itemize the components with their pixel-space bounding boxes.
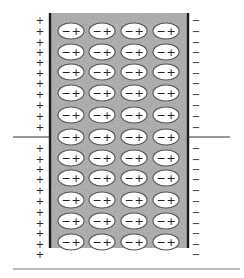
dipole: −+ xyxy=(89,213,115,229)
plus-charge: + xyxy=(36,143,44,154)
dipole-positive-charge: + xyxy=(166,172,175,185)
dipole-negative-charge: − xyxy=(61,152,70,165)
dipole-negative-charge: − xyxy=(92,109,101,122)
dipole-negative-charge: − xyxy=(92,236,101,249)
dipole-negative-charge: − xyxy=(124,172,133,185)
plus-charge: + xyxy=(36,174,44,185)
dipole: −+ xyxy=(89,107,115,123)
minus-charge: − xyxy=(192,207,200,218)
dipole-positive-charge: + xyxy=(71,215,80,228)
dipole-negative-charge: − xyxy=(61,87,70,100)
dipole-positive-charge: + xyxy=(166,194,175,207)
dipole-negative-charge: − xyxy=(61,46,70,59)
dipole-positive-charge: + xyxy=(166,131,175,144)
plus-charge: + xyxy=(36,207,44,218)
dipole: −+ xyxy=(153,150,179,166)
dipole: −+ xyxy=(89,170,115,186)
dipole-negative-charge: − xyxy=(92,194,101,207)
dipole-negative-charge: − xyxy=(124,152,133,165)
dipole-positive-charge: + xyxy=(134,109,143,122)
dipole: −+ xyxy=(58,85,84,101)
dipole-negative-charge: − xyxy=(156,152,165,165)
dipole: −+ xyxy=(121,129,147,145)
dipole-negative-charge: − xyxy=(156,109,165,122)
dipole-positive-charge: + xyxy=(102,46,111,59)
minus-charge: − xyxy=(192,174,200,185)
dipole: −+ xyxy=(58,107,84,123)
dipole: −+ xyxy=(89,44,115,60)
dipole-positive-charge: + xyxy=(134,194,143,207)
dipole-positive-charge: + xyxy=(102,25,111,38)
dipole: −+ xyxy=(58,23,84,39)
dipole: −+ xyxy=(58,192,84,208)
dipole-positive-charge: + xyxy=(134,66,143,79)
dipole: −+ xyxy=(58,150,84,166)
minus-charge: − xyxy=(192,57,200,68)
dipole: −+ xyxy=(153,192,179,208)
dipole-positive-charge: + xyxy=(134,172,143,185)
minus-charge: − xyxy=(192,111,200,122)
dipole: −+ xyxy=(58,129,84,145)
dipole: −+ xyxy=(153,234,179,250)
dipole-negative-charge: − xyxy=(156,194,165,207)
dipole: −+ xyxy=(153,107,179,123)
dipole-positive-charge: + xyxy=(102,236,111,249)
dipole-positive-charge: + xyxy=(134,131,143,144)
dipole: −+ xyxy=(58,64,84,80)
minus-charge: − xyxy=(192,15,200,26)
dipole: −+ xyxy=(153,44,179,60)
dipole-positive-charge: + xyxy=(102,109,111,122)
minus-charge: − xyxy=(192,78,200,89)
dipole: −+ xyxy=(89,64,115,80)
dipole-positive-charge: + xyxy=(166,87,175,100)
dipole-positive-charge: + xyxy=(102,194,111,207)
minus-charge: − xyxy=(192,249,200,260)
dipole: −+ xyxy=(121,170,147,186)
dipole: −+ xyxy=(89,85,115,101)
minus-charge: − xyxy=(192,122,200,133)
dipole: −+ xyxy=(89,234,115,250)
dipole-positive-charge: + xyxy=(134,87,143,100)
dipole-positive-charge: + xyxy=(71,172,80,185)
plus-charge: + xyxy=(36,196,44,207)
minus-charge: − xyxy=(192,26,200,37)
dipole-positive-charge: + xyxy=(166,109,175,122)
dipole-negative-charge: − xyxy=(124,194,133,207)
plus-charge: + xyxy=(36,228,44,239)
dipole: −+ xyxy=(121,44,147,60)
dipole: −+ xyxy=(58,170,84,186)
dipole-positive-charge: + xyxy=(71,194,80,207)
dipole-positive-charge: + xyxy=(71,25,80,38)
dipole-negative-charge: − xyxy=(124,109,133,122)
dipole-negative-charge: − xyxy=(92,152,101,165)
minus-charge: − xyxy=(192,143,200,154)
dipole-negative-charge: − xyxy=(92,25,101,38)
dipole-positive-charge: + xyxy=(102,152,111,165)
dipole-positive-charge: + xyxy=(134,46,143,59)
minus-charge: − xyxy=(192,100,200,111)
dipole-negative-charge: − xyxy=(92,215,101,228)
plus-charge: + xyxy=(36,249,44,260)
dipole-positive-charge: + xyxy=(71,152,80,165)
dipole: −+ xyxy=(89,23,115,39)
dipole-negative-charge: − xyxy=(156,46,165,59)
dipole: −+ xyxy=(153,170,179,186)
dipole: −+ xyxy=(121,23,147,39)
dipole-positive-charge: + xyxy=(102,172,111,185)
minus-charge: − xyxy=(192,89,200,100)
minus-charge: − xyxy=(192,228,200,239)
dipole: −+ xyxy=(58,44,84,60)
dipole-negative-charge: − xyxy=(124,25,133,38)
dipole-negative-charge: − xyxy=(156,87,165,100)
dipole-negative-charge: − xyxy=(124,236,133,249)
dipole-negative-charge: − xyxy=(156,25,165,38)
plus-charge: + xyxy=(36,185,44,196)
dipole-positive-charge: + xyxy=(71,46,80,59)
dipole-negative-charge: − xyxy=(124,87,133,100)
dipole-negative-charge: − xyxy=(92,172,101,185)
dipole: −+ xyxy=(89,129,115,145)
dipole: −+ xyxy=(121,192,147,208)
dipole-positive-charge: + xyxy=(102,215,111,228)
dipole: −+ xyxy=(153,213,179,229)
dipole-negative-charge: − xyxy=(61,66,70,79)
